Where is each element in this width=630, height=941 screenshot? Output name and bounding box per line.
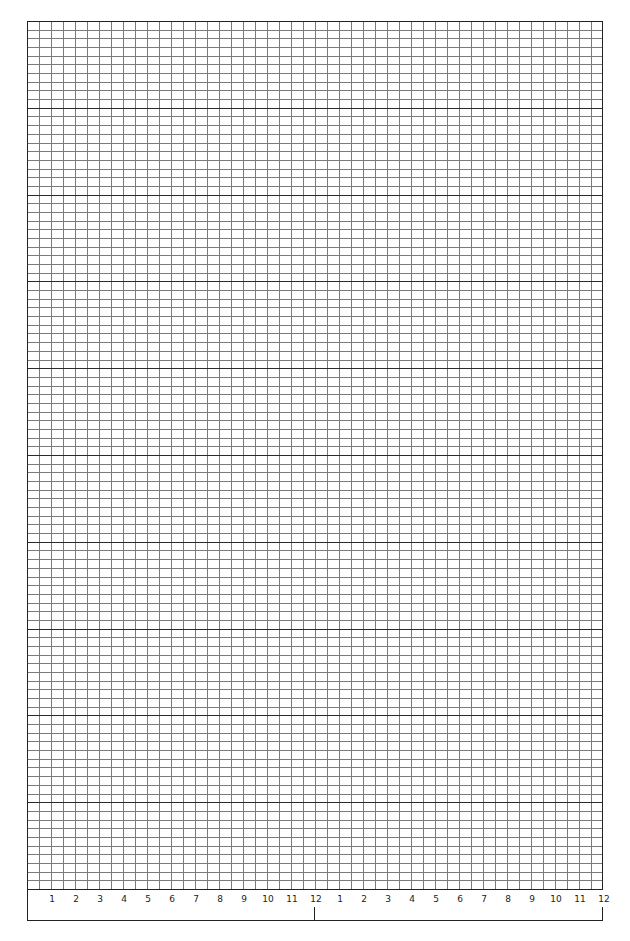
scale-label: 1 bbox=[337, 894, 343, 904]
scale-label: 2 bbox=[73, 894, 79, 904]
scale-label: 12 bbox=[310, 894, 321, 904]
scale-label: 1 bbox=[49, 894, 55, 904]
scale-label: 8 bbox=[217, 894, 223, 904]
scale-label: 3 bbox=[385, 894, 391, 904]
scale-label: 3 bbox=[97, 894, 103, 904]
scale-label: 12 bbox=[598, 894, 609, 904]
scale-label: 6 bbox=[457, 894, 463, 904]
scale-label: 6 bbox=[169, 894, 175, 904]
graph-paper-grid bbox=[0, 0, 630, 941]
scale-label: 5 bbox=[433, 894, 439, 904]
scale-label: 2 bbox=[361, 894, 367, 904]
scale-label: 11 bbox=[286, 894, 297, 904]
scale-label: 7 bbox=[193, 894, 199, 904]
scale-label: 9 bbox=[241, 894, 247, 904]
scale-label: 8 bbox=[505, 894, 511, 904]
scale-label: 4 bbox=[409, 894, 415, 904]
scale-label: 9 bbox=[529, 894, 535, 904]
scale-label: 10 bbox=[550, 894, 561, 904]
scale-label: 11 bbox=[574, 894, 585, 904]
scale-label: 10 bbox=[262, 894, 273, 904]
scale-label: 4 bbox=[121, 894, 127, 904]
scale-label: 5 bbox=[145, 894, 151, 904]
scale-label: 7 bbox=[481, 894, 487, 904]
